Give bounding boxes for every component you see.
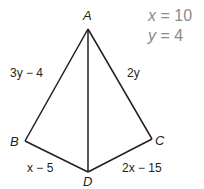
- vertex-label-b: B: [10, 134, 19, 149]
- segment-label-cd: 2x − 15: [122, 161, 162, 175]
- segment-ac: [88, 29, 152, 139]
- segment-ab: [25, 29, 88, 141]
- given-x: x = 10: [148, 6, 192, 26]
- vertex-label-d: D: [83, 174, 92, 189]
- vertex-label-a: A: [83, 8, 92, 23]
- vertex-label-c: C: [155, 133, 164, 148]
- segment-label-ac: 2y: [127, 66, 140, 80]
- segment-label-ab: 3y − 4: [10, 66, 43, 80]
- given-y: y = 4: [148, 26, 183, 46]
- segment-label-bd: x − 5: [27, 161, 53, 175]
